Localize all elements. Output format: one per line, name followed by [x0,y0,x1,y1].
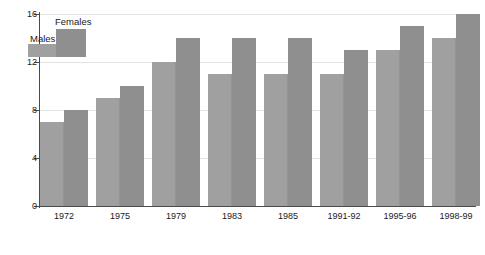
x-axis-line [39,206,476,207]
y-axis-label-0: 0 [15,202,37,211]
bar-males-1979 [152,62,176,206]
legend-label-males: Males [30,34,55,44]
bar-males-1975 [96,98,120,206]
bar-females-1975 [120,86,144,206]
bar-females-1998-99 [456,14,480,206]
y-axis-label-4: 4 [15,154,37,163]
legend-label-females: Females [55,17,91,27]
bar-males-1985 [264,74,288,206]
x-axis-label-1998-99: 1998-99 [421,212,485,221]
bar-males-1983 [208,74,232,206]
y-axis-label-12: 12 [15,58,37,67]
plot-area [40,14,476,206]
bar-males-1991-92 [320,74,344,206]
bar-males-1972 [40,122,64,206]
bar-females-1983 [232,38,256,206]
bar-females-1972 [64,110,88,206]
legend-swatch-females [56,29,86,57]
y-axis-label-8: 8 [15,106,37,115]
bar-males-1998-99 [432,38,456,206]
bar-females-1995-96 [400,26,424,206]
legend-swatch-males [28,44,56,57]
bar-males-1995-96 [376,50,400,206]
bar-chart: 16 12 8 4 0 [0,0,485,255]
bar-females-1991-92 [344,50,368,206]
bar-females-1985 [288,38,312,206]
y-axis-label-16: 16 [15,10,37,19]
bar-females-1979 [176,38,200,206]
